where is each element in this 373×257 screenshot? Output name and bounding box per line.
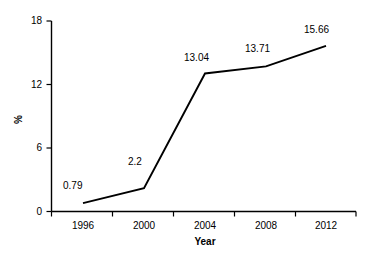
x-tick-label-1996: 1996 (61, 221, 105, 231)
chart-plot-area (0, 0, 373, 257)
x-tick-label-2008: 2008 (244, 221, 288, 231)
x-axis-title: Year (183, 237, 227, 247)
y-tick-label-18: 18 (18, 16, 42, 26)
x-tick-label-2004: 2004 (183, 221, 227, 231)
x-tick-label-2000: 2000 (122, 221, 166, 231)
y-axis-title: % (14, 115, 24, 124)
y-tick-label-6: 6 (18, 143, 42, 153)
x-tick-label-2012: 2012 (304, 221, 348, 231)
data-label-2004: 13.04 (184, 53, 209, 63)
data-label-1996: 0.79 (63, 181, 82, 191)
data-label-2008: 13.71 (245, 44, 270, 54)
y-tick-label-12: 12 (18, 80, 42, 90)
data-series-line (83, 46, 326, 203)
data-label-2012: 15.66 (304, 25, 329, 35)
y-tick-label-0: 0 (18, 207, 42, 217)
data-label-2000: 2.2 (128, 157, 142, 167)
line-chart: 18 12 6 0 1996 2000 2004 2008 2012 0.79 … (0, 0, 373, 257)
